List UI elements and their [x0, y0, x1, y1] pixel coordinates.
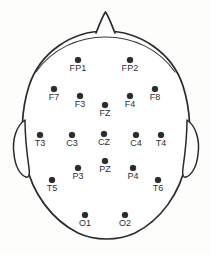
electrode-label: P4: [122, 171, 144, 181]
electrode-label: C3: [61, 138, 83, 148]
electrode-label: FZ: [94, 108, 116, 118]
electrode-label: P3: [67, 171, 89, 181]
electrode-label: T6: [147, 183, 169, 193]
electrode-label: T5: [41, 183, 63, 193]
electrode-label: F4: [119, 99, 141, 109]
electrode-label: F7: [43, 92, 65, 102]
electrode-label: O2: [114, 218, 136, 228]
electrode-label: C4: [125, 138, 147, 148]
eeg-electrode-diagram: FP1FP2F7F3FZF4F8T3C3CZC4T4P3PZP4T5T6O1O2: [0, 0, 211, 255]
electrode-label: F3: [69, 99, 91, 109]
electrode-label: O1: [74, 218, 96, 228]
electrode-label: FP1: [67, 63, 89, 73]
electrode-label: FP2: [119, 63, 141, 73]
electrode-label: CZ: [93, 137, 115, 147]
electrode-label: PZ: [94, 164, 116, 174]
electrode-label: T3: [29, 138, 51, 148]
electrode-label: F8: [144, 92, 166, 102]
electrode-label: T4: [150, 138, 172, 148]
electrode-layer: FP1FP2F7F3FZF4F8T3C3CZC4T4P3PZP4T5T6O1O2: [0, 0, 211, 255]
